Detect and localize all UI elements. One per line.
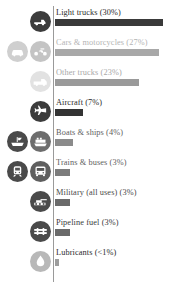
icon-cluster-cars-motorcycles xyxy=(0,36,53,66)
bar-label-military: Military (all uses) (3%) xyxy=(56,187,137,198)
airplane-icon xyxy=(30,101,51,122)
icon-cluster-trains-buses xyxy=(0,156,53,186)
bus-icon xyxy=(30,161,51,182)
bar-light-trucks xyxy=(55,19,163,26)
oil-drop-icon xyxy=(30,251,51,272)
bar-label-other-trucks: Other trucks (23%) xyxy=(56,67,122,78)
chart-row-trains-buses: Trains & buses (3%) xyxy=(0,156,176,186)
bar-military xyxy=(55,199,70,206)
icon-cluster-light-trucks xyxy=(0,6,53,36)
row-body-aircraft: Aircraft (7%) xyxy=(55,96,176,126)
icon-cluster-aircraft xyxy=(0,96,53,126)
bar-label-trains-buses: Trains & buses (3%) xyxy=(56,157,127,168)
icon-cluster-pipeline-fuel xyxy=(0,216,53,246)
row-body-other-trucks: Other trucks (23%) xyxy=(55,66,176,96)
bar-other-trucks xyxy=(55,79,139,86)
bar-lubricants xyxy=(55,259,59,266)
bar-label-aircraft: Aircraft (7%) xyxy=(56,97,102,108)
row-body-military: Military (all uses) (3%) xyxy=(55,186,176,216)
chart-row-light-trucks: Light trucks (30%) xyxy=(0,6,176,36)
pipeline-icon xyxy=(30,221,51,242)
chart-row-boats-ships: Boats & ships (4%) xyxy=(0,126,176,156)
bar-label-boats-ships: Boats & ships (4%) xyxy=(56,127,123,138)
chart-row-aircraft: Aircraft (7%) xyxy=(0,96,176,126)
bar-label-cars-motorcycles: Cars & motorcycles (27%) xyxy=(56,37,148,48)
bar-trains-buses xyxy=(55,169,70,176)
icon-cluster-military xyxy=(0,186,53,216)
motorcycle-icon xyxy=(30,41,51,62)
bar-label-lubricants: Lubricants (<1%) xyxy=(56,247,116,258)
row-body-pipeline-fuel: Pipeline fuel (3%) xyxy=(55,216,176,246)
row-body-light-trucks: Light trucks (30%) xyxy=(55,6,176,36)
bar-label-light-trucks: Light trucks (30%) xyxy=(56,7,121,18)
chart-row-lubricants: Lubricants (<1%) xyxy=(0,246,176,276)
semi-truck-icon xyxy=(30,71,51,92)
bar-cars-motorcycles xyxy=(55,49,159,56)
bar-aircraft xyxy=(55,109,83,116)
boat-icon xyxy=(7,131,28,152)
icon-cluster-boats-ships xyxy=(0,126,53,156)
icon-cluster-lubricants xyxy=(0,246,53,276)
row-body-boats-ships: Boats & ships (4%) xyxy=(55,126,176,156)
bar-label-pipeline-fuel: Pipeline fuel (3%) xyxy=(56,217,119,228)
row-body-lubricants: Lubricants (<1%) xyxy=(55,246,176,276)
car-icon xyxy=(7,41,28,62)
train-icon xyxy=(7,161,28,182)
tank-icon xyxy=(30,191,51,212)
pickup-truck-icon xyxy=(30,11,51,32)
row-body-trains-buses: Trains & buses (3%) xyxy=(55,156,176,186)
row-body-cars-motorcycles: Cars & motorcycles (27%) xyxy=(55,36,176,66)
icon-cluster-other-trucks xyxy=(0,66,53,96)
chart-row-other-trucks: Other trucks (23%) xyxy=(0,66,176,96)
chart-row-cars-motorcycles: Cars & motorcycles (27%) xyxy=(0,36,176,66)
bar-pipeline-fuel xyxy=(55,229,70,236)
chart-row-military: Military (all uses) (3%) xyxy=(0,186,176,216)
ship-icon xyxy=(30,131,51,152)
chart-row-pipeline-fuel: Pipeline fuel (3%) xyxy=(0,216,176,246)
horizontal-bar-chart: Light trucks (30%)Cars & motorcycles (27… xyxy=(0,0,176,289)
bar-boats-ships xyxy=(55,139,73,146)
